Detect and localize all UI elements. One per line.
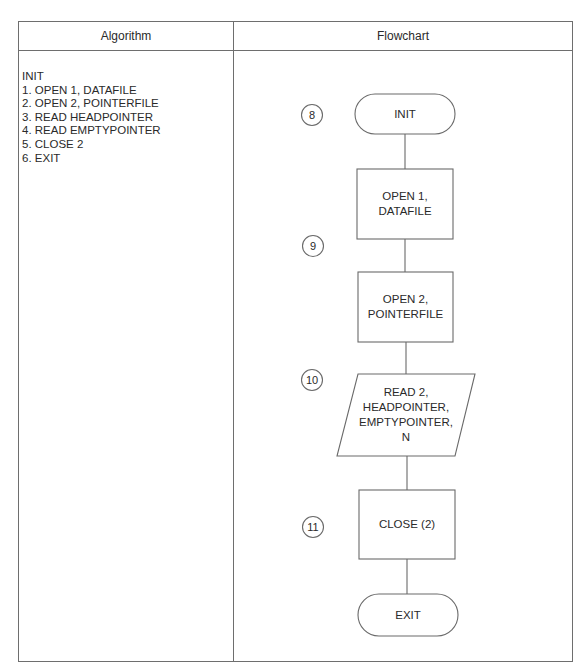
node-init-label: INIT xyxy=(355,94,455,134)
step-number-10: 10 xyxy=(301,369,323,391)
node-open2-line: OPEN 2, xyxy=(383,292,428,307)
flowchart-diagram xyxy=(0,0,588,671)
node-read2-label: READ 2, HEADPOINTER, EMPTYPOINTER, N xyxy=(346,374,466,456)
step-number-8: 8 xyxy=(301,104,323,126)
node-open1-label: OPEN 1, DATAFILE xyxy=(357,169,453,239)
node-open2-line: POINTERFILE xyxy=(368,307,443,322)
node-read2-line: READ 2, xyxy=(384,385,429,400)
step-number-9: 9 xyxy=(302,235,324,257)
node-read2-line: N xyxy=(402,430,410,445)
node-open2-label: OPEN 2, POINTERFILE xyxy=(358,272,453,342)
node-open1-line: OPEN 1, xyxy=(382,189,427,204)
node-read2-line: HEADPOINTER, xyxy=(363,400,449,415)
node-close2-label: CLOSE (2) xyxy=(359,490,455,559)
node-read2-line: EMPTYPOINTER, xyxy=(359,415,453,430)
node-exit-line: EXIT xyxy=(395,608,421,623)
node-exit-label: EXIT xyxy=(358,594,458,636)
node-open1-line: DATAFILE xyxy=(378,204,431,219)
step-number-11: 11 xyxy=(302,516,324,538)
node-init-line: INIT xyxy=(394,107,416,122)
node-close2-line: CLOSE (2) xyxy=(379,517,435,532)
